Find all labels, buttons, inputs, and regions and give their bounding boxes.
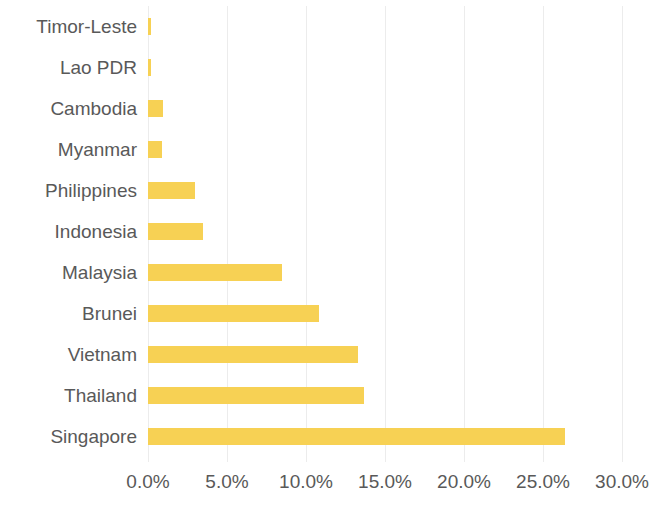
bar-row: Myanmar [148, 129, 622, 170]
bar [148, 141, 162, 158]
bar [148, 100, 163, 117]
bar [148, 305, 319, 322]
bar [148, 264, 282, 281]
bar-row: Cambodia [148, 88, 622, 129]
category-label: Indonesia [55, 223, 137, 240]
bar [148, 18, 151, 35]
bar-row: Malaysia [148, 252, 622, 293]
bar-row: Philippines [148, 170, 622, 211]
bar-row: Brunei [148, 293, 622, 334]
bar-row: Singapore [148, 416, 622, 457]
bar [148, 59, 151, 76]
plot-area: Timor-LesteLao PDRCambodiaMyanmarPhilipp… [148, 6, 622, 462]
category-label: Timor-Leste [36, 18, 137, 35]
gridline [622, 6, 623, 462]
bar-row: Timor-Leste [148, 6, 622, 47]
x-axis-tick-label: 5.0% [205, 470, 248, 494]
category-label: Malaysia [62, 264, 137, 281]
bar [148, 387, 364, 404]
category-label: Cambodia [50, 100, 137, 117]
category-label: Brunei [82, 305, 137, 322]
category-label: Lao PDR [60, 59, 137, 76]
bar [148, 182, 195, 199]
category-label: Myanmar [58, 141, 137, 158]
bar [148, 346, 358, 363]
x-axis-tick-label: 10.0% [279, 470, 333, 494]
bar-chart: Timor-LesteLao PDRCambodiaMyanmarPhilipp… [0, 0, 660, 505]
bar [148, 428, 565, 445]
bar-row: Indonesia [148, 211, 622, 252]
bar-row: Lao PDR [148, 47, 622, 88]
x-axis-tick-label: 0.0% [126, 470, 169, 494]
bar-row: Vietnam [148, 334, 622, 375]
x-axis-tick-label: 20.0% [437, 470, 491, 494]
category-label: Thailand [64, 387, 137, 404]
x-axis-tick-label: 25.0% [516, 470, 570, 494]
bar-row: Thailand [148, 375, 622, 416]
category-label: Singapore [50, 428, 137, 445]
x-axis-tick-label: 30.0% [595, 470, 649, 494]
category-label: Philippines [45, 182, 137, 199]
x-axis-tick-label: 15.0% [358, 470, 412, 494]
category-label: Vietnam [68, 346, 137, 363]
bar [148, 223, 203, 240]
